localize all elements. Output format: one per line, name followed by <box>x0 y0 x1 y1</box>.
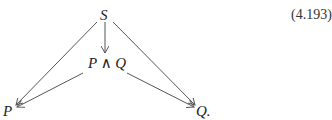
arrow-pandq-to-q <box>127 73 194 107</box>
node-s: S <box>100 8 108 23</box>
arrow-pandq-to-p <box>17 73 83 107</box>
node-p: P <box>3 104 12 119</box>
node-p-and-q: P ∧ Q <box>88 56 126 71</box>
equation-number: (4.193) <box>291 8 332 22</box>
node-q: Q. <box>196 104 211 119</box>
arrow-s-to-p <box>16 22 97 105</box>
